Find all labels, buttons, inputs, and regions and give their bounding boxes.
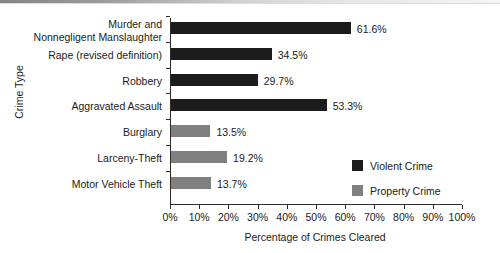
y-axis-category-label-line: Robbery <box>122 75 162 88</box>
bar-value-label: 34.5% <box>278 49 308 61</box>
x-axis-tick-label: 40% <box>276 211 297 223</box>
y-axis-category-label-line: Nonnegligent Manslaughter <box>34 31 162 44</box>
x-axis-tick <box>170 205 171 209</box>
bar-value-label: 13.7% <box>217 178 247 190</box>
bar-value-label: 13.5% <box>216 126 246 138</box>
bar-chart-figure: Crime Type Murder andNonnegligent Mansla… <box>0 0 500 253</box>
y-axis-category-label: Murder andNonnegligent Manslaughter <box>34 18 162 43</box>
y-axis-category-label-line: Murder and <box>34 18 162 31</box>
bar[interactable] <box>171 48 272 60</box>
bar-value-label: 29.7% <box>264 75 294 87</box>
x-axis-tick-label: 30% <box>247 211 268 223</box>
y-axis-tick <box>166 145 170 146</box>
bar-value-label: 53.3% <box>333 100 363 112</box>
y-axis-category-label-line: Motor Vehicle Theft <box>72 178 162 191</box>
bar[interactable] <box>171 74 258 86</box>
y-axis-category-label-line: Burglary <box>123 126 162 139</box>
y-axis-tick <box>166 42 170 43</box>
y-axis-category-label: Aggravated Assault <box>72 100 162 113</box>
bar[interactable] <box>171 177 211 189</box>
y-axis-category-label: Rape (revised definition) <box>48 49 162 62</box>
legend-swatch-icon <box>352 160 363 171</box>
x-axis-tick <box>258 205 259 209</box>
x-axis-title-text: Percentage of Crimes Cleared <box>244 231 385 243</box>
x-axis-tick-label: 50% <box>305 211 326 223</box>
x-axis-tick <box>316 205 317 209</box>
y-axis-category-label: Robbery <box>122 75 162 88</box>
x-axis-tick-label: 80% <box>393 211 414 223</box>
y-axis-category-label-line: Larceny-Theft <box>97 152 162 165</box>
y-axis-tick <box>166 171 170 172</box>
x-axis-tick-label: 0% <box>162 211 177 223</box>
x-axis-title: Percentage of Crimes Cleared <box>0 231 500 243</box>
scan-edge-artifact-secondary <box>0 3 500 4</box>
bar[interactable] <box>171 22 351 34</box>
x-axis-tick-label: 20% <box>218 211 239 223</box>
x-axis-tick <box>345 205 346 209</box>
x-axis-tick <box>199 205 200 209</box>
bar[interactable] <box>171 99 327 111</box>
x-axis-tick-label: 70% <box>364 211 385 223</box>
x-axis-tick <box>228 205 229 209</box>
bar[interactable] <box>171 151 227 163</box>
y-axis-tick <box>166 93 170 94</box>
chart-legend: Violent CrimeProperty Crime <box>352 156 472 206</box>
bar[interactable] <box>171 125 210 137</box>
y-axis-category-label-line: Rape (revised definition) <box>48 49 162 62</box>
y-axis-category-label: Motor Vehicle Theft <box>72 178 162 191</box>
bar-value-label: 19.2% <box>233 152 263 164</box>
x-axis-tick-label: 60% <box>335 211 356 223</box>
x-axis-tick-label: 90% <box>422 211 443 223</box>
y-axis-category-labels: Murder andNonnegligent ManslaughterRape … <box>18 18 166 205</box>
x-axis-tick-label: 100% <box>449 211 476 223</box>
legend-item[interactable]: Violent Crime <box>352 156 472 175</box>
bar-value-label: 61.6% <box>357 23 387 35</box>
legend-item[interactable]: Property Crime <box>352 181 472 200</box>
x-axis-tick-label: 10% <box>189 211 210 223</box>
x-axis-tick <box>287 205 288 209</box>
legend-swatch-icon <box>352 185 363 196</box>
y-axis-tick <box>166 68 170 69</box>
y-axis-tick <box>166 119 170 120</box>
y-axis-tick <box>166 16 170 17</box>
legend-label: Property Crime <box>370 185 441 197</box>
y-axis-category-label: Larceny-Theft <box>97 152 162 165</box>
legend-label: Violent Crime <box>370 160 433 172</box>
y-axis-category-label-line: Aggravated Assault <box>72 100 162 113</box>
y-axis-category-label: Burglary <box>123 126 162 139</box>
